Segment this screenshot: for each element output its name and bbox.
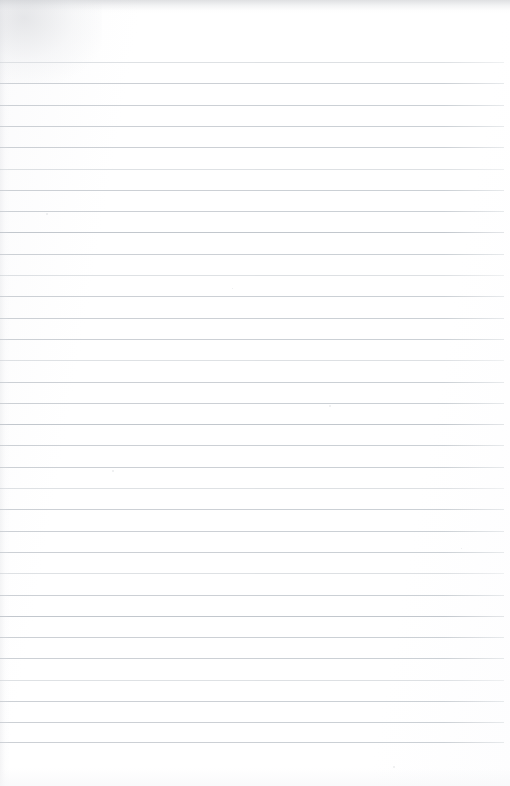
paper-sheet — [0, 0, 510, 786]
scanned-page: Blank Ruled Notebook Page — [0, 0, 510, 786]
